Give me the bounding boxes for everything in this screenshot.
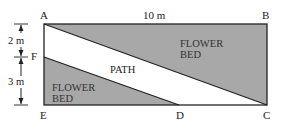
upper-bed-line1: FLOWER [180,38,223,49]
arrow-down-icon [19,50,24,56]
path-label: PATH [110,65,135,76]
point-b-label: B [262,10,269,21]
point-e-label: E [40,110,47,121]
dimension-2m-label: 2 m [8,36,24,47]
arrow-down-icon [19,98,24,104]
point-a-label: A [40,10,48,21]
lower-bed-line2: BED [52,93,95,104]
lower-bed-line1: FLOWER [52,82,95,93]
arrow-up-icon [19,25,24,31]
point-c-label: C [263,110,270,121]
dimension-3m-label: 3 m [8,77,24,88]
point-d-label: D [176,110,184,121]
point-f-label: F [31,51,37,62]
lower-flower-bed-label: FLOWER BED [52,82,95,104]
dimension-top-label: 10 m [143,10,165,21]
upper-bed-line2: BED [180,49,223,60]
upper-flower-bed-label: FLOWER BED [180,38,223,60]
arrow-up-icon [19,58,24,64]
